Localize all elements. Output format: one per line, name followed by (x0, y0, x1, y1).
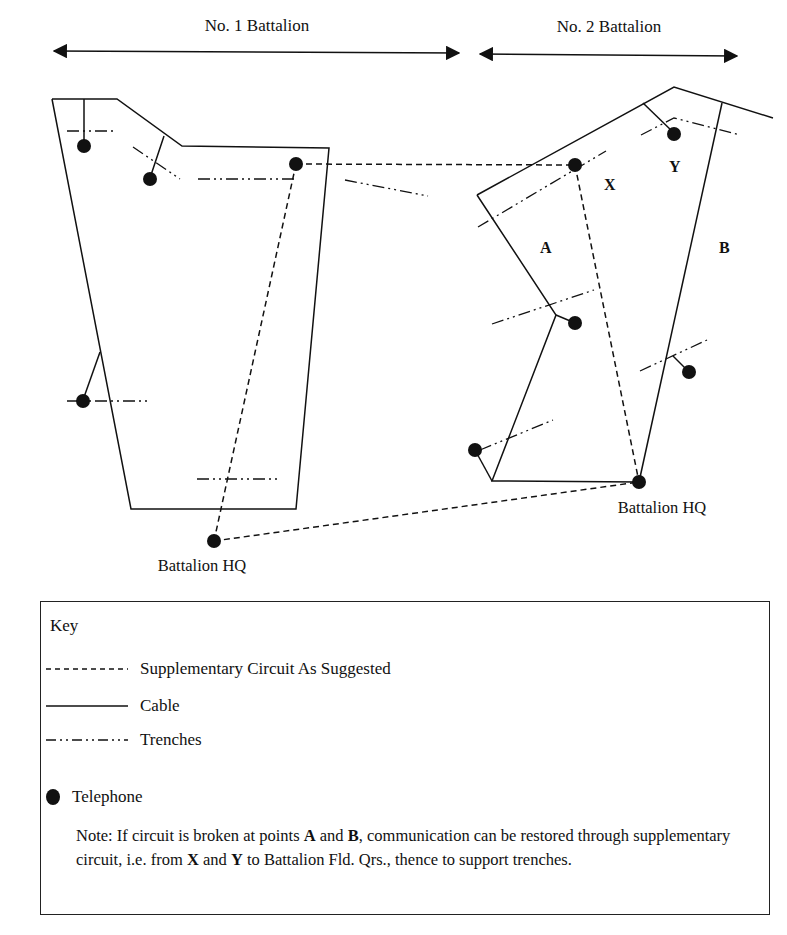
battalion-2-extent-arrow (480, 54, 737, 56)
note-text: to Battalion Fld. Qrs., thence to suppor… (243, 850, 572, 869)
key-label: Supplementary Circuit As Suggested (140, 659, 391, 679)
telephone-icon (682, 365, 696, 379)
supplementary-circuit (214, 482, 639, 541)
key-title: Key (50, 616, 78, 636)
telephone-icon (568, 316, 582, 330)
cable-branch-a (477, 195, 639, 482)
note-text: Note: If circuit is broken at points (76, 826, 304, 845)
telephone-icon (289, 157, 303, 171)
hq-2-label: Battalion HQ (618, 498, 707, 517)
point-y-label: Y (669, 158, 681, 175)
point-a-label: A (540, 239, 552, 256)
cable-spur (83, 352, 100, 400)
key-note: Note: If circuit is broken at points A a… (76, 824, 756, 872)
trench (478, 151, 606, 227)
trench (133, 147, 180, 179)
key-label: Cable (140, 696, 180, 716)
cable-battalion-2-outline (477, 87, 773, 195)
trench (641, 118, 740, 135)
key-item-supplementary-circuit: Supplementary Circuit As Suggested (46, 659, 391, 679)
telephone-icon-hq-2 (632, 475, 646, 489)
telephone-icon (77, 139, 91, 153)
telephone-icon (468, 443, 482, 457)
key-item-cable: Cable (46, 696, 180, 716)
note-point-y: Y (231, 850, 243, 869)
trench (480, 420, 553, 450)
key-item-telephone: Telephone (46, 787, 143, 807)
trench-communication-diagram: No. 1 Battalion No. 2 Battalion (0, 0, 787, 600)
note-point-x: X (187, 850, 199, 869)
telephone-icon-hq-1 (207, 534, 221, 548)
key-label: Trenches (140, 730, 202, 750)
trench (640, 340, 707, 371)
key-label: Telephone (72, 787, 143, 807)
supplementary-circuit (575, 165, 639, 482)
cable-spur (150, 136, 164, 178)
note-text: and (316, 826, 348, 845)
dash-dot-dot-line-swatch (46, 735, 128, 745)
battalion-1-heading: No. 1 Battalion (205, 16, 310, 35)
point-b-label: B (719, 239, 730, 256)
telephone-icon-x (568, 158, 582, 172)
legend-key-box: Key Supplementary Circuit As Suggested C… (40, 601, 770, 915)
solid-line-swatch (46, 701, 128, 711)
telephone-icon-y (667, 127, 681, 141)
note-text: and (199, 850, 231, 869)
dashed-line-swatch (46, 664, 128, 674)
trench (345, 180, 428, 196)
point-x-label: X (604, 176, 616, 193)
telephone-icon (76, 394, 90, 408)
note-point-b: B (348, 826, 359, 845)
hq-1-label: Battalion HQ (158, 556, 247, 575)
cable-spur-y (643, 103, 674, 133)
note-point-a: A (304, 826, 316, 845)
supplementary-circuit (214, 164, 296, 541)
cable-battalion-1-outline (52, 99, 329, 509)
telephone-icon (46, 789, 60, 805)
key-item-trenches: Trenches (46, 730, 202, 750)
battalion-1-extent-arrow (54, 51, 459, 53)
battalion-2-heading: No. 2 Battalion (557, 17, 662, 36)
telephone-icon (143, 172, 157, 186)
